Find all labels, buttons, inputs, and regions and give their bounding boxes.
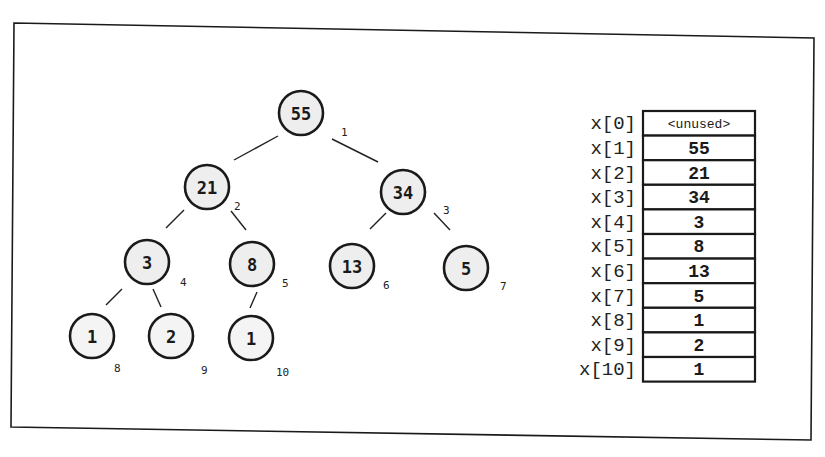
- tree-edge: [250, 292, 257, 308]
- array-row: x[9]2: [590, 332, 755, 357]
- node-index-label: 6: [383, 279, 390, 292]
- node-value: 55: [291, 104, 311, 124]
- array-row: x[7]5: [590, 283, 755, 308]
- node-index-label: 10: [276, 366, 289, 379]
- node-value: 34: [393, 183, 413, 203]
- tree-node: 55: [279, 91, 323, 135]
- node-index-label: 2: [234, 200, 241, 213]
- array-index-label: x[9]: [590, 335, 636, 357]
- array-cell-value: <unused>: [668, 117, 731, 132]
- node-index-label: 7: [500, 280, 507, 293]
- tree-node: 21: [185, 165, 229, 209]
- node-value: 8: [247, 255, 257, 275]
- node-index-label: 4: [180, 276, 187, 289]
- array-index-label: x[10]: [579, 359, 636, 381]
- tree-node: 2: [149, 314, 193, 358]
- array-cell-value: 2: [694, 336, 705, 356]
- tree-node: 34: [381, 170, 425, 214]
- node-value: 5: [461, 259, 471, 279]
- tree-node: 8: [230, 242, 274, 286]
- node-value: 2: [166, 327, 176, 347]
- tree-edge: [332, 139, 378, 162]
- tree-node: 13: [330, 244, 374, 288]
- array-row: x[8]1: [590, 308, 755, 333]
- node-value: 13: [342, 257, 362, 277]
- tree-edge: [153, 289, 161, 307]
- tree-edge: [106, 289, 122, 305]
- tree-node: 5: [444, 246, 488, 290]
- array-row: x[1]55: [590, 136, 755, 161]
- tree-nodes: 55213438135121: [70, 91, 488, 360]
- array-index-label: x[4]: [590, 212, 636, 234]
- array-cell-value: 1: [694, 311, 705, 331]
- array-cell-value: 55: [688, 139, 710, 159]
- array-row: x[5]8: [590, 234, 755, 259]
- node-value: 1: [246, 329, 256, 349]
- array-row: x[3]34: [590, 185, 755, 210]
- tree-node: 1: [229, 316, 273, 360]
- array-cell-value: 1: [694, 360, 705, 380]
- array-cell-value: 34: [688, 188, 710, 208]
- array-cell-value: 21: [688, 164, 710, 184]
- array-cell-value: 3: [694, 213, 705, 233]
- array-table: x[0]<unused>x[1]55x[2]21x[3]34x[4]3x[5]8…: [579, 111, 755, 382]
- node-index-label: 5: [282, 277, 289, 290]
- node-index-label: 1: [341, 126, 348, 139]
- array-index-label: x[8]: [590, 310, 636, 332]
- node-index-label: 8: [114, 362, 121, 375]
- array-cell-value: 5: [694, 287, 705, 307]
- tree-edge: [231, 211, 246, 230]
- array-row: x[4]3: [590, 209, 755, 234]
- array-index-label: x[0]: [590, 113, 636, 135]
- node-value: 1: [87, 327, 97, 347]
- tree-node: 1: [70, 314, 114, 358]
- array-index-label: x[3]: [590, 187, 636, 209]
- array-row: x[10]1: [579, 357, 755, 382]
- node-index-label: 3: [443, 204, 450, 217]
- array-row: x[0]<unused>: [590, 111, 755, 136]
- array-index-label: x[1]: [590, 138, 636, 160]
- tree-edge: [370, 213, 386, 229]
- array-row: x[6]13: [590, 259, 755, 284]
- node-value: 21: [197, 178, 217, 198]
- array-cell-value: 13: [688, 262, 710, 282]
- tree-edge: [234, 136, 278, 160]
- array-index-label: x[7]: [590, 286, 636, 308]
- array-index-label: x[5]: [590, 236, 636, 258]
- heap-diagram: 55213438135121 12345678910 x[0]<unused>x…: [0, 0, 825, 457]
- node-index-label: 9: [201, 364, 208, 377]
- node-value: 3: [142, 253, 152, 273]
- array-row: x[2]21: [590, 160, 755, 185]
- array-cell-value: 8: [694, 237, 705, 257]
- tree-edge: [166, 210, 184, 228]
- array-index-label: x[6]: [590, 261, 636, 283]
- array-index-label: x[2]: [590, 163, 636, 185]
- tree-node: 3: [125, 240, 169, 284]
